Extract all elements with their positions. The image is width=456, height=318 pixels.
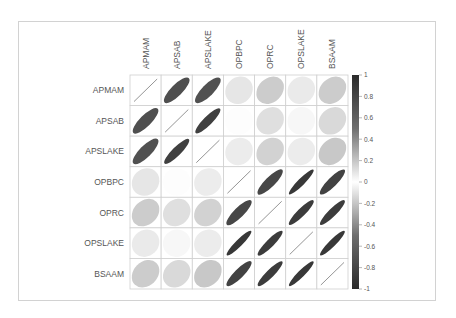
row-label: OPRC — [99, 208, 124, 218]
colorbar-tick-label: 0.2 — [364, 157, 373, 164]
colorbar-tick-label: 0.4 — [364, 136, 373, 143]
correlation-plot: APMAMAPSABAPSLAKEOPBPCOPRCOPSLAKEBSAAM A… — [0, 0, 456, 318]
row-label: APSAB — [96, 116, 125, 126]
column-label: BSAAM — [327, 39, 337, 69]
colorbar-tick-label: -0.8 — [364, 264, 376, 271]
column-label: APMAM — [141, 38, 151, 69]
column-label: OPSLAKE — [296, 29, 306, 69]
colorbar-tick-label: 0.8 — [364, 93, 373, 100]
colorbar-tick-label: 1 — [364, 71, 368, 78]
row-label: APSLAKE — [85, 146, 124, 156]
colorbar — [352, 75, 359, 289]
row-label: APMAM — [93, 85, 124, 95]
colorbar-tick-label: -0.6 — [364, 243, 376, 250]
row-label: OPBPC — [94, 177, 124, 187]
colorbar-tick-label: -1 — [364, 285, 370, 292]
row-label: BSAAM — [94, 269, 124, 279]
colorbar-tick-label: -0.2 — [364, 200, 376, 207]
column-label: APSAB — [172, 40, 182, 69]
row-label: OPSLAKE — [84, 238, 124, 248]
colorbar-tick-label: 0.6 — [364, 114, 373, 121]
column-label: OPBPC — [234, 39, 244, 69]
column-label: OPRC — [265, 44, 275, 69]
colorbar-tick-label: 0 — [364, 178, 368, 185]
column-label: APSLAKE — [203, 30, 213, 69]
colorbar-tick-label: -0.4 — [364, 221, 376, 228]
